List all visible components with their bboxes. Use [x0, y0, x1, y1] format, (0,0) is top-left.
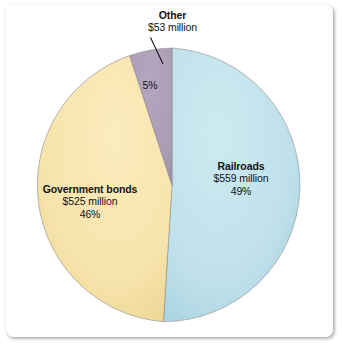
slice-label-government-bonds-name: Government bonds	[26, 183, 154, 195]
slice-label-other-value: $53 million	[95, 21, 250, 33]
slice-label-railroads: Railroads $559 million 49%	[186, 160, 296, 197]
pie-chart: Other $53 million 5% Railroads $559 mill…	[0, 0, 342, 349]
slice-label-other-name: Other	[95, 9, 250, 21]
slice-label-railroads-name: Railroads	[186, 160, 296, 172]
slice-percent-other: 5%	[134, 79, 166, 91]
slice-label-government-bonds-value: $525 million	[26, 195, 154, 207]
slice-label-government-bonds-percent: 46%	[26, 208, 154, 220]
slice-label-other: Other $53 million	[95, 9, 250, 34]
slice-label-railroads-value: $559 million	[186, 172, 296, 184]
slice-percent-other-text: 5%	[134, 79, 166, 91]
slice-label-railroads-percent: 49%	[186, 185, 296, 197]
slice-label-government-bonds: Government bonds $525 million 46%	[26, 183, 154, 220]
